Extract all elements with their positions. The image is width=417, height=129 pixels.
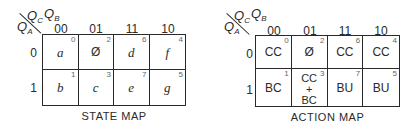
- cell-value: b: [57, 81, 64, 94]
- cell-0: 0CC: [256, 36, 292, 69]
- cell-index: 3: [320, 70, 324, 78]
- state-map: QA QC QB 00 01 11 10 0 1 0a 2Ø 6d 4f 1b …: [0, 0, 210, 129]
- col-variable-2: QB: [251, 7, 266, 23]
- cell-0: 0a: [43, 35, 79, 70]
- cell-index: 6: [142, 36, 146, 44]
- cell-value: g: [164, 81, 171, 94]
- cell-index: 2: [107, 36, 111, 44]
- col-variable-1: QC: [27, 9, 43, 25]
- cell-7: 7e: [114, 70, 150, 105]
- action-map-title: ACTION MAP: [255, 112, 400, 123]
- cell-value: e: [128, 81, 134, 94]
- row-label-0: 0: [243, 48, 253, 60]
- cell-index: 2: [320, 37, 324, 45]
- cell-6: 6CC: [328, 36, 364, 69]
- cell-index: 7: [142, 71, 146, 79]
- cell-5: 5BU: [363, 69, 399, 106]
- cell-3: 3c: [79, 70, 115, 105]
- cell-4: 4f: [150, 35, 186, 70]
- row-label-0: 0: [27, 47, 37, 59]
- cell-value: c: [93, 81, 99, 94]
- row-label-1: 1: [27, 82, 37, 94]
- action-map-grid: 0CC 2Ø 6CC 4CC 1BC 3 CC + BC 7BU 5BU: [255, 35, 400, 107]
- cell-index: 4: [393, 37, 397, 45]
- cell-value: BU: [373, 82, 390, 94]
- cell-value-stack: CC + BC: [301, 73, 317, 106]
- cell-value: d: [128, 46, 135, 59]
- cell-index: 1: [284, 70, 288, 78]
- cell-index: 4: [179, 36, 183, 44]
- cell-value: Ø: [91, 46, 100, 58]
- cell-1: 1BC: [256, 69, 292, 106]
- cell-value: a: [57, 46, 64, 59]
- cell-5: 5g: [150, 70, 186, 105]
- cell-2: 2Ø: [292, 36, 328, 69]
- cell-4: 4CC: [363, 36, 399, 69]
- state-map-title: STATE MAP: [42, 111, 186, 122]
- col-variable-2: QB: [44, 7, 59, 23]
- cell-value: CC: [336, 46, 353, 58]
- cell-index: 5: [393, 70, 397, 78]
- col-variable-1: QC: [234, 9, 250, 25]
- cell-index: 3: [107, 71, 111, 79]
- row-label-1: 1: [243, 84, 253, 96]
- action-map: QA QC QB 00 01 11 10 0 1 0CC 2Ø 6CC 4CC …: [207, 0, 417, 129]
- cell-value: Ø: [304, 46, 313, 58]
- cell-index: 5: [179, 71, 183, 79]
- cell-value: BU: [337, 82, 354, 94]
- cell-value: CC: [372, 46, 389, 58]
- cell-value: BC: [265, 82, 282, 94]
- cell-index: 0: [284, 37, 288, 45]
- cell-7: 7BU: [328, 69, 364, 106]
- cell-index: 7: [356, 70, 360, 78]
- cell-value: CC: [265, 46, 282, 58]
- cell-index: 0: [71, 36, 75, 44]
- cell-6: 6d: [114, 35, 150, 70]
- cell-3: 3 CC + BC: [292, 69, 328, 106]
- state-map-grid: 0a 2Ø 6d 4f 1b 3c 7e 5g: [42, 34, 186, 106]
- cell-index: 1: [71, 71, 75, 79]
- cell-value-line: BC: [301, 95, 316, 106]
- cell-value: f: [165, 46, 169, 59]
- cell-1: 1b: [43, 70, 79, 105]
- cell-index: 6: [356, 37, 360, 45]
- cell-2: 2Ø: [79, 35, 115, 70]
